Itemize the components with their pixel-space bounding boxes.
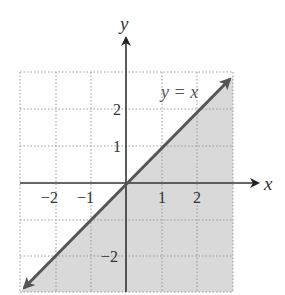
x-tick-1: 1 (158, 189, 166, 206)
y-axis-label: y (118, 13, 129, 34)
y-tick-1: 1 (113, 138, 121, 155)
line-label: y = x (159, 82, 198, 102)
x-tick-2: 2 (193, 189, 201, 206)
x-tick-neg2: −2 (41, 189, 58, 206)
x-tick-neg1: −1 (77, 189, 94, 206)
inequality-graph: x y y = x −2 −1 1 2 2 1 −2 (0, 0, 285, 295)
y-tick-2: 2 (113, 101, 121, 118)
x-axis-label: x (263, 173, 273, 194)
y-tick-neg2: −2 (101, 248, 118, 265)
